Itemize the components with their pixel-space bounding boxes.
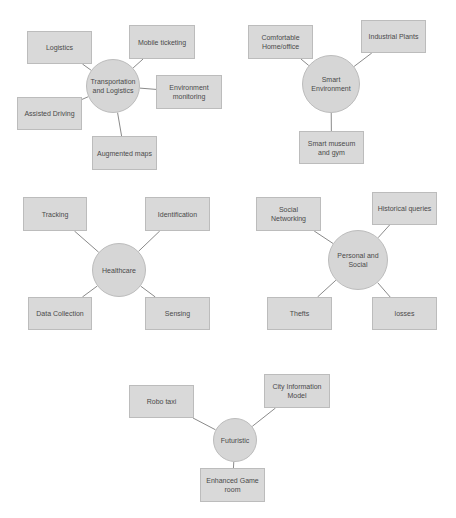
leaf-node-losses: losses [372, 297, 437, 330]
leaf-label: Industrial Plants [369, 32, 419, 41]
edge-personal-and-social-thefts [318, 280, 336, 297]
leaf-node-sensing: Sensing [145, 297, 210, 330]
edge-personal-and-social-losses [378, 283, 390, 297]
hub-node-transportation-and-logistics: Transportation and Logistics [86, 59, 140, 113]
edge-futuristic-city-information-model [252, 408, 275, 426]
leaf-label: Identification [158, 210, 197, 219]
leaf-label: Logistics [46, 43, 73, 52]
leaf-node-industrial-plants: Industrial Plants [361, 20, 426, 53]
leaf-label: Mobile ticketing [138, 38, 186, 47]
leaf-label: Social Networking [261, 205, 316, 223]
hub-node-smart-environment: Smart Environment [302, 55, 360, 113]
hub-label: Healthcare [102, 266, 136, 275]
leaf-label: Data Collection [36, 309, 83, 318]
iot-applications-mind-map: Transportation and LogisticsLogisticsMob… [0, 0, 456, 518]
leaf-label: Comfortable Home/office [253, 33, 308, 51]
leaf-node-thefts: Thefts [267, 297, 332, 330]
leaf-label: Augmented maps [97, 149, 152, 158]
edge-personal-and-social-historical-queries [378, 225, 389, 238]
leaf-node-enhanced-game-room: Enhanced Game room [200, 468, 265, 502]
edge-transportation-and-logistics-mobile-ticketing [133, 59, 143, 68]
hub-node-healthcare: Healthcare [92, 243, 146, 297]
leaf-label: Sensing [165, 309, 190, 318]
hub-label: Futuristic [221, 436, 249, 445]
leaf-label: Robo taxi [147, 397, 177, 406]
edge-transportation-and-logistics-logistics [82, 64, 91, 70]
edge-futuristic-robo-taxi [193, 418, 216, 430]
leaf-node-environment-monitoring: Environment monitoring [156, 75, 222, 109]
leaf-node-logistics: Logistics [27, 31, 92, 64]
leaf-label: Smart museum and gym [304, 139, 359, 157]
leaf-node-social-networking: Social Networking [256, 197, 321, 231]
leaf-label: Assisted Driving [24, 109, 74, 118]
leaf-node-city-information-model: City Information Model [264, 374, 330, 408]
leaf-node-historical-queries: Historical queries [372, 192, 437, 225]
edge-healthcare-identification [139, 231, 160, 251]
leaf-node-tracking: Tracking [23, 197, 87, 231]
leaf-label: Tracking [42, 210, 69, 219]
hub-label: Smart Environment [305, 75, 357, 93]
edge-personal-and-social-social-networking [314, 231, 333, 243]
edge-transportation-and-logistics-augmented-maps [118, 113, 122, 136]
hub-node-personal-and-social: Personal and Social [328, 230, 388, 290]
leaf-node-robo-taxi: Robo taxi [129, 385, 194, 418]
hub-node-futuristic: Futuristic [213, 418, 257, 462]
leaf-node-data-collection: Data Collection [28, 297, 92, 330]
leaf-node-assisted-driving: Assisted Driving [17, 97, 82, 130]
leaf-label: City Information Model [269, 382, 325, 400]
leaf-label: Thefts [290, 309, 309, 318]
edge-smart-environment-comfortable-home-office [301, 59, 309, 65]
edge-smart-environment-industrial-plants [354, 53, 372, 66]
edge-healthcare-tracking [74, 231, 98, 252]
edge-healthcare-data-collection [82, 286, 97, 297]
edge-transportation-and-logistics-assisted-driving [82, 97, 88, 100]
edge-transportation-and-logistics-environment-monitoring [140, 88, 156, 89]
leaf-label: losses [395, 309, 415, 318]
leaf-label: Historical queries [378, 204, 432, 213]
hub-label: Personal and Social [331, 251, 385, 269]
leaf-label: Environment monitoring [161, 83, 217, 101]
hub-label: Transportation and Logistics [89, 77, 137, 95]
leaf-label: Enhanced Game room [205, 476, 260, 494]
leaf-node-mobile-ticketing: Mobile ticketing [129, 25, 195, 59]
edge-healthcare-sensing [141, 286, 156, 297]
leaf-node-smart-museum-and-gym: Smart museum and gym [299, 131, 364, 164]
leaf-node-augmented-maps: Augmented maps [92, 136, 157, 170]
leaf-node-identification: Identification [145, 197, 210, 231]
leaf-node-comfortable-home-office: Comfortable Home/office [248, 25, 313, 59]
